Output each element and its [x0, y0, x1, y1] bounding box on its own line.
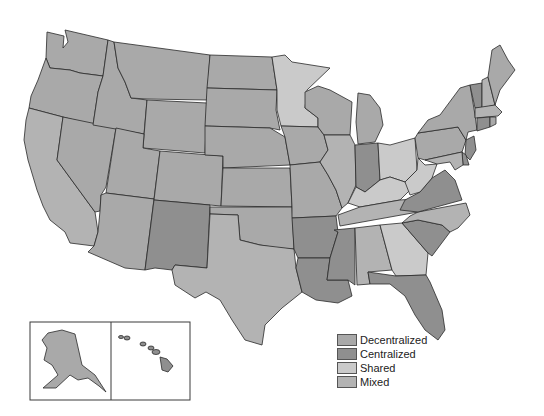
legend-item-mixed: Mixed	[337, 375, 427, 389]
legend-item-shared: Shared	[337, 361, 427, 375]
state-nm[interactable]	[145, 200, 210, 270]
state-mt[interactable]	[114, 42, 210, 100]
state-mi[interactable]	[356, 93, 383, 144]
legend-swatch-centralized	[337, 348, 357, 360]
state-ak[interactable]	[42, 330, 106, 392]
state-hi[interactable]	[119, 336, 174, 373]
state-ct[interactable]	[477, 117, 490, 131]
state-ks[interactable]	[221, 168, 292, 207]
state-ri[interactable]	[490, 117, 496, 127]
legend-swatch-decentralized	[337, 334, 357, 346]
legend-item-decentralized: Decentralized	[337, 333, 427, 347]
legend-swatch-shared	[337, 362, 357, 374]
legend-label-decentralized: Decentralized	[360, 333, 427, 347]
state-nd[interactable]	[207, 55, 277, 90]
map-legend: Decentralized Centralized Shared Mixed	[337, 333, 427, 389]
legend-item-centralized: Centralized	[337, 347, 427, 361]
legend-label-centralized: Centralized	[360, 347, 416, 361]
legend-label-shared: Shared	[360, 361, 395, 375]
state-fl[interactable]	[368, 272, 445, 340]
us-map	[0, 0, 544, 416]
state-sd[interactable]	[205, 88, 280, 130]
legend-swatch-mixed	[337, 376, 357, 388]
state-wy[interactable]	[143, 100, 207, 153]
state-ar[interactable]	[292, 216, 338, 258]
legend-label-mixed: Mixed	[360, 375, 389, 389]
state-co[interactable]	[154, 151, 223, 206]
